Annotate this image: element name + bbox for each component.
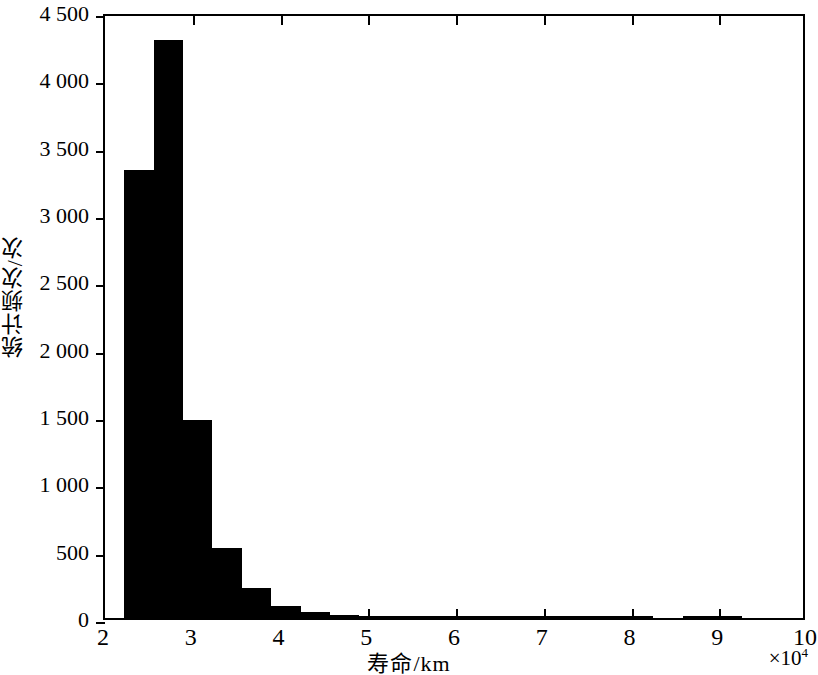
histogram-bar [506, 616, 535, 618]
histogram-bar [536, 616, 565, 618]
x-axis-tick-top [456, 16, 458, 25]
x-axis-exponent-power: 4 [802, 645, 809, 660]
x-axis-tick [544, 609, 546, 618]
x-axis-tick [281, 609, 283, 618]
x-axis-tick-top [368, 16, 370, 25]
y-axis-tick-label: 2 500 [0, 272, 89, 294]
histogram-bar [359, 616, 388, 618]
y-axis-tick-label: 1 000 [0, 474, 89, 496]
x-axis-tick-top [193, 16, 195, 25]
y-axis-tick [96, 16, 105, 18]
x-axis-tick [193, 609, 195, 618]
y-axis-tick-label: 2 000 [0, 340, 89, 362]
histogram-bar [154, 40, 183, 618]
plot-area [103, 14, 805, 620]
y-axis-tick [96, 285, 105, 287]
x-axis-tick-top [544, 16, 546, 25]
bar-series [105, 16, 803, 618]
y-axis-tick-label: 4 000 [0, 70, 89, 92]
y-axis-tick [96, 353, 105, 355]
x-axis-tick [368, 609, 370, 618]
histogram-bar [418, 616, 447, 618]
histogram-figure: 统计频次/次 05001 0001 5002 0002 5003 0003 50… [0, 0, 818, 675]
x-axis-tick [632, 609, 634, 618]
histogram-bar [477, 616, 506, 618]
y-axis-tick-label: 1 500 [0, 407, 89, 429]
y-axis-tick-label: 0 [0, 609, 89, 631]
y-axis-tick [96, 151, 105, 153]
y-axis-tick-label: 3 500 [0, 138, 89, 160]
x-axis-tick-top [632, 16, 634, 25]
histogram-bar [330, 615, 359, 618]
y-axis-tick [96, 555, 105, 557]
y-axis-tick [96, 487, 105, 489]
histogram-bar [301, 612, 330, 618]
x-axis-tick-top [719, 16, 721, 25]
x-axis-tick [719, 609, 721, 618]
histogram-bar [389, 616, 418, 618]
y-axis-tick [96, 420, 105, 422]
x-axis-exponent-base: ×10 [769, 646, 802, 670]
histogram-bar [712, 616, 741, 618]
histogram-bar [242, 588, 271, 618]
histogram-bar [124, 170, 153, 618]
x-axis-tick-top [281, 16, 283, 25]
histogram-bar [565, 616, 594, 618]
histogram-bar [448, 616, 477, 618]
x-axis-title: 寿命/km [0, 645, 818, 675]
x-axis-exponent: ×104 [769, 645, 808, 671]
histogram-bar [183, 420, 212, 618]
histogram-bar [683, 616, 712, 618]
y-axis-tick [96, 83, 105, 85]
histogram-bar [271, 606, 300, 618]
y-axis-tick-label: 4 500 [0, 3, 89, 25]
y-axis-tick-label: 500 [0, 542, 89, 564]
y-axis-tick [96, 218, 105, 220]
histogram-bar [624, 616, 653, 618]
x-axis-tick [456, 609, 458, 618]
histogram-bar [212, 548, 241, 618]
y-axis-tick-label: 3 000 [0, 205, 89, 227]
histogram-bar [595, 616, 624, 618]
